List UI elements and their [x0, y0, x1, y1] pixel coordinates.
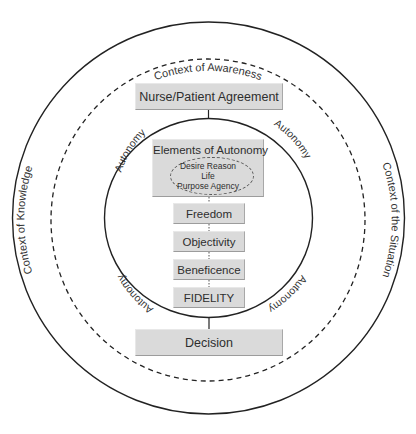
autonomy-label-bottom-right: Autonomy	[266, 274, 310, 317]
principle-objectivity-box: Objectivity	[173, 231, 245, 252]
principle-label: FIDELITY	[184, 292, 234, 304]
principle-label: Objectivity	[182, 236, 235, 248]
context-awareness-label: Context of Awareness	[152, 61, 264, 83]
autonomy-label-bottom-left: Autonomy	[113, 272, 155, 317]
principle-label: Beneficence	[177, 264, 240, 276]
decision-box: Decision	[135, 329, 283, 356]
principle-beneficence-box: Beneficence	[173, 259, 245, 280]
nurse-patient-agreement-label: Nurse/Patient Agreement	[139, 90, 279, 104]
principle-label: Freedom	[186, 208, 232, 220]
elements-of-autonomy-box: Elements of Autonomy Desire Reason Life …	[152, 139, 264, 197]
autonomy-label-top-left: Autonomy	[112, 125, 148, 173]
element-life: Life	[153, 171, 263, 181]
principle-freedom-box: Freedom	[173, 203, 245, 224]
nurse-patient-agreement-box: Nurse/Patient Agreement	[135, 83, 283, 110]
element-desire-reason: Desire Reason	[153, 161, 263, 171]
element-purpose-agency: Purpose Agency	[153, 181, 263, 191]
context-situation-label: Context of the Situation	[380, 161, 401, 280]
autonomy-label-top-right: Autonomy	[272, 117, 314, 161]
decision-label: Decision	[185, 336, 233, 350]
principle-fidelity-box: FIDELITY	[173, 287, 245, 308]
elements-of-autonomy-title: Elements of Autonomy	[153, 144, 263, 156]
